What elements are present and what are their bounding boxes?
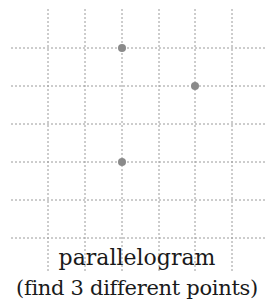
point-c — [118, 158, 126, 166]
horizontal-grid-lines — [11, 48, 265, 238]
point-a — [118, 44, 126, 52]
instruction-text: (find 3 different points) — [0, 274, 274, 302]
shape-name-label: parallelogram — [0, 244, 274, 272]
point-b — [191, 82, 199, 90]
vertical-grid-lines — [48, 9, 232, 273]
